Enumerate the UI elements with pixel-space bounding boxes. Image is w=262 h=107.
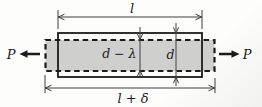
force-label-right: P — [242, 47, 252, 62]
force-label-left: P — [6, 47, 16, 62]
label-depth-contracted: d − λ — [102, 46, 136, 61]
force-arrow-left-icon — [20, 50, 41, 58]
label-length-original: l — [130, 1, 134, 16]
bar-tension-figure: l l + δ d − λ d P P — [0, 0, 262, 107]
force-arrow-right-icon — [219, 50, 240, 58]
label-depth-original: d — [166, 47, 174, 62]
label-length-elongated: l + δ — [117, 91, 148, 106]
diagram-canvas: l l + δ d − λ d P P — [0, 0, 262, 107]
